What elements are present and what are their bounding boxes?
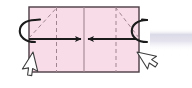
right-edge-wrap-loop-tail bbox=[142, 20, 147, 21]
origami-diagram: Fold both sides in to the center line Or… bbox=[0, 0, 192, 88]
compression-artifact-band bbox=[150, 29, 192, 51]
diagram-canvas bbox=[0, 0, 192, 88]
left-edge-wrap-loop-tail bbox=[35, 20, 40, 21]
